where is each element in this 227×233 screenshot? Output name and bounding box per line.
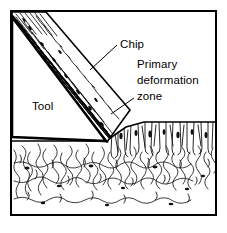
label-chip: Chip bbox=[120, 38, 144, 50]
figure-container: Chip Primary deformation zone Tool bbox=[0, 0, 227, 233]
label-primary: Primary bbox=[137, 58, 177, 70]
label-zone: zone bbox=[137, 90, 162, 102]
label-deformation: deformation bbox=[137, 74, 199, 86]
label-tool: Tool bbox=[32, 100, 54, 112]
metal-cutting-diagram: Chip Primary deformation zone Tool bbox=[0, 0, 227, 233]
